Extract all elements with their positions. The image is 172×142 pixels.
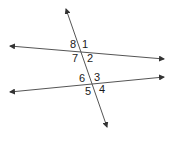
angle-diagram: 12345678: [0, 0, 172, 142]
angle-label-6: 6: [79, 72, 85, 84]
angle-label-5: 5: [85, 85, 91, 97]
diagram-canvas: 12345678: [0, 0, 172, 142]
angle-label-1: 1: [82, 38, 88, 50]
angle-label-3: 3: [94, 71, 100, 83]
transversal: [66, 9, 107, 127]
angle-label-2: 2: [87, 52, 93, 64]
angle-label-8: 8: [70, 38, 76, 50]
angle-label-4: 4: [99, 83, 105, 95]
angle-label-7: 7: [72, 52, 78, 64]
